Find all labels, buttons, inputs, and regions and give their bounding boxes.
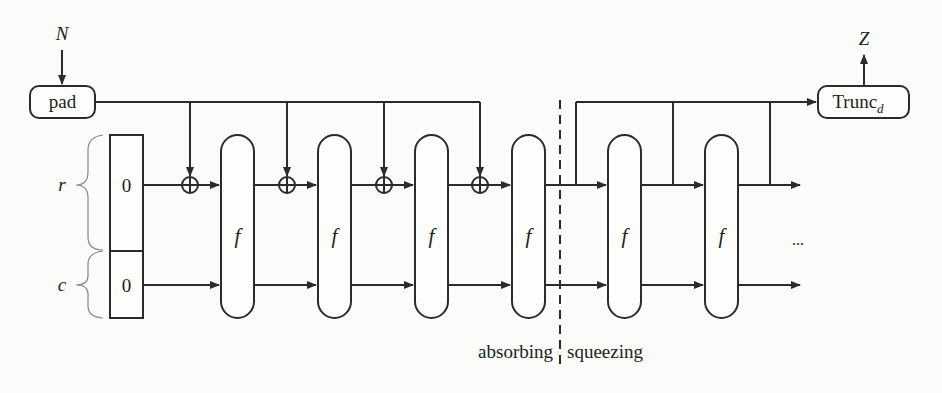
permutation-block-5: f (608, 135, 641, 318)
permutation-block-1: f (221, 135, 254, 318)
trunc-subscript: d (877, 101, 884, 116)
permutation-block-4: f (512, 135, 545, 318)
permutation-block-2: f (318, 135, 351, 318)
xor-icon (182, 177, 198, 193)
rate-init-value: 0 (122, 175, 132, 196)
squeezing-label: squeezing (567, 341, 643, 362)
capacity-init-value: 0 (122, 275, 132, 296)
trunc-box: Truncd (818, 86, 909, 118)
trunc-label: Trunc (832, 91, 877, 112)
permutation-block-6: f (705, 135, 738, 318)
pad-box: pad (30, 86, 95, 118)
continuation-ellipsis: ... (792, 231, 804, 248)
output-label: Z (859, 28, 870, 49)
capacity-label: c (58, 274, 67, 295)
xor-icon (472, 177, 488, 193)
xor-icon (279, 177, 295, 193)
permutation-block-3: f (415, 135, 448, 318)
pad-label: pad (49, 91, 77, 112)
absorbing-label: absorbing (478, 341, 553, 362)
input-label: N (55, 23, 70, 44)
capacity-brace (76, 251, 103, 318)
xor-icon (376, 177, 392, 193)
sponge-diagram: N pad Truncd Z r c 0 0 (0, 0, 942, 393)
rate-label: r (58, 174, 66, 195)
initial-state: 0 0 (110, 135, 143, 318)
rate-brace (76, 135, 103, 250)
